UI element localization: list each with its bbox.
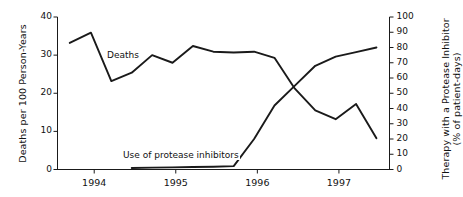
left-tick-label-10: 10 (26, 125, 52, 135)
right-tick-label-20: 20 (397, 133, 408, 143)
series-annotation-protease-inhibitors: Use of protease inhibitors (122, 150, 240, 160)
right-tick-label-80: 80 (397, 42, 408, 52)
right-tick-label-0: 0 (397, 164, 403, 174)
left-tick-label-30: 30 (26, 49, 52, 59)
left-tick-label-0: 0 (26, 164, 52, 174)
right-tick-label-50: 50 (397, 87, 408, 97)
left-axis-ticks (54, 17, 58, 170)
right-tick-label-10: 10 (397, 148, 408, 158)
series-annotation-deaths: Deaths (106, 50, 140, 60)
right-tick-label-60: 60 (397, 72, 408, 82)
series-line-deaths (70, 33, 377, 139)
right-axis-title: Therapy with a Protease Inhibitor (% of … (441, 11, 463, 187)
right-tick-label-70: 70 (397, 57, 408, 67)
x-tick-label-1995: 1995 (158, 177, 194, 188)
right-tick-label-90: 90 (397, 26, 408, 36)
x-tick-label-1997: 1997 (321, 177, 357, 188)
x-tick-label-1994: 1994 (76, 177, 112, 188)
right-axis-title-line1: Therapy with a Protease Inhibitor (440, 18, 451, 179)
x-tick-label-1996: 1996 (239, 177, 275, 188)
right-axis-ticks (390, 17, 394, 170)
right-axis-title-line2: (% of patient-days) (452, 11, 463, 187)
right-tick-label-100: 100 (397, 11, 414, 21)
x-axis-ticks (94, 170, 339, 174)
right-tick-label-30: 30 (397, 118, 408, 128)
axis-lines (58, 17, 390, 170)
left-tick-label-20: 20 (26, 87, 52, 97)
left-tick-label-40: 40 (26, 11, 52, 21)
right-tick-label-40: 40 (397, 103, 408, 113)
